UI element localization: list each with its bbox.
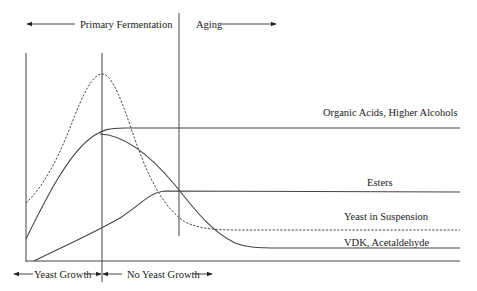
primary-fermentation-label: Primary Fermentation [80,19,173,30]
yeast-suspension-curve [26,74,460,230]
organic-acids-label: Organic Acids, Higher Alcohols [323,107,458,118]
vdk-label: VDK, Acetaldehyde [344,237,429,248]
aging-label: Aging [196,19,223,30]
esters-label: Esters [367,177,393,188]
no-yeast-growth-label: No Yeast Growth [127,269,200,280]
yeast-suspension-label: Yeast in Suspension [344,211,429,222]
yeast-growth-label: Yeast Growth [34,269,92,280]
organic-acids-curve [26,128,460,239]
fermentation-diagram: Primary Fermentation Aging Organic Acids… [0,0,477,291]
esters-curve [34,191,460,261]
